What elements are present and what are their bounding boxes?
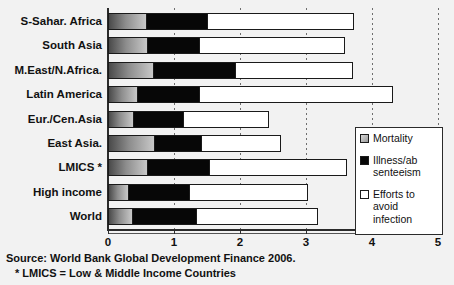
x-tick-label: 5	[425, 236, 451, 248]
bar-segment-efforts	[200, 87, 392, 102]
legend-label-illness: Illness/ab senteeism	[373, 154, 421, 179]
bar-row: M.East/N.Africa.	[0, 62, 454, 79]
category-label: S-Sahar. Africa	[0, 13, 102, 30]
bar-segment-efforts	[236, 63, 352, 78]
bar-segment-efforts	[190, 185, 307, 200]
stacked-bar	[108, 184, 308, 201]
category-label: High income	[0, 184, 102, 201]
bar-row: South Asia	[0, 37, 454, 54]
bar-segment-efforts	[202, 136, 280, 151]
bar-segment-efforts	[197, 209, 317, 224]
black-square-icon	[360, 156, 369, 165]
bar-row: Latin America	[0, 86, 454, 103]
tick-mark-2	[240, 229, 241, 234]
bar-segment-illness	[138, 87, 200, 102]
legend-item-illness: Illness/ab senteeism	[360, 154, 439, 179]
stacked-bar	[108, 208, 318, 225]
bar-segment-illness	[155, 136, 203, 151]
tick-mark-3	[306, 229, 307, 234]
source-note: Source: World Bank Global Development Fi…	[6, 252, 296, 264]
bar-segment-efforts	[200, 38, 344, 53]
tick-mark-1	[174, 229, 175, 234]
bar-segment-efforts	[208, 14, 353, 29]
x-tick-label: 2	[227, 236, 253, 248]
category-label: East Asia.	[0, 135, 102, 152]
stacked-bar	[108, 111, 269, 128]
tick-mark-0	[108, 229, 109, 234]
category-label: Latin America	[0, 86, 102, 103]
stacked-bar	[108, 159, 347, 176]
x-tick-label: 3	[293, 236, 319, 248]
bar-segment-efforts	[184, 112, 268, 127]
stacked-bar	[108, 37, 345, 54]
bar-segment-mortality	[109, 136, 155, 151]
chart-legend: Mortality Illness/ab senteeism Efforts t…	[355, 127, 443, 235]
bar-segment-illness	[147, 14, 209, 29]
category-label: M.East/N.Africa.	[0, 62, 102, 79]
legend-item-mortality: Mortality	[360, 132, 439, 145]
lmics-footnote: * LMICS = Low & Middle Income Countries	[15, 267, 236, 279]
bar-segment-mortality	[109, 112, 134, 127]
stacked-bar	[108, 62, 353, 79]
bar-segment-illness	[148, 38, 200, 53]
bar-segment-illness	[134, 112, 184, 127]
category-label: LMICS *	[0, 159, 102, 176]
stacked-bar	[108, 13, 354, 30]
stacked-bar	[108, 135, 281, 152]
white-square-icon	[360, 190, 369, 199]
bar-segment-illness	[148, 160, 210, 175]
bar-segment-illness	[133, 209, 197, 224]
bar-segment-mortality	[109, 209, 133, 224]
category-label: World	[0, 208, 102, 225]
bar-segment-mortality	[109, 63, 154, 78]
category-label: South Asia	[0, 37, 102, 54]
bar-segment-mortality	[109, 160, 148, 175]
bar-segment-illness	[154, 63, 236, 78]
x-tick-label: 0	[95, 236, 121, 248]
bar-segment-mortality	[109, 14, 147, 29]
x-tick-label: 1	[161, 236, 187, 248]
bar-row: Eur./Cen.Asia	[0, 111, 454, 128]
legend-label-efforts: Efforts to avoid infection	[373, 188, 415, 226]
chart-container: 012345 S-Sahar. AfricaSouth AsiaM.East/N…	[0, 0, 454, 285]
x-tick-label: 4	[359, 236, 385, 248]
stacked-bar	[108, 86, 393, 103]
bar-segment-mortality	[109, 87, 138, 102]
category-label: Eur./Cen.Asia	[0, 111, 102, 128]
bar-segment-mortality	[109, 185, 129, 200]
bar-segment-efforts	[210, 160, 346, 175]
legend-item-efforts: Efforts to avoid infection	[360, 188, 439, 226]
gradient-gray-square-icon	[360, 134, 369, 143]
bar-row: S-Sahar. Africa	[0, 13, 454, 30]
bar-segment-mortality	[109, 38, 148, 53]
legend-label-mortality: Mortality	[373, 132, 413, 145]
bar-segment-illness	[129, 185, 190, 200]
